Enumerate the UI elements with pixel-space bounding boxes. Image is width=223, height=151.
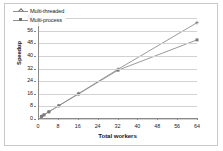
x-axis-tick-labels: 0816243240485664 xyxy=(38,121,197,131)
legend-marker-cross-icon xyxy=(13,8,28,15)
y-axis-tick-label: 16 xyxy=(27,91,33,96)
x-axis-tick-label: 16 xyxy=(75,124,81,129)
y-axis-tick-mark xyxy=(34,69,36,70)
x-axis-tick-label: 32 xyxy=(115,124,121,129)
x-axis-tick-mark xyxy=(38,118,39,120)
x-axis-tick-mark xyxy=(157,118,158,120)
y-axis-tick-label: 8 xyxy=(30,104,33,109)
legend-label: Multi-threaded xyxy=(30,9,64,15)
y-axis-tick-mark xyxy=(34,94,36,95)
legend-item-multi-threaded[interactable]: Multi-threaded xyxy=(13,7,64,16)
x-axis-tick-mark xyxy=(118,118,119,120)
gridline xyxy=(39,106,197,107)
gridline xyxy=(39,31,197,32)
x-axis-tick-label: 0 xyxy=(37,124,40,129)
y-axis-tick-label: 32 xyxy=(27,66,33,71)
gridline xyxy=(39,69,197,70)
gridline xyxy=(39,43,197,44)
x-axis-tick-mark xyxy=(98,118,99,120)
y-axis-tick-mark xyxy=(34,31,36,32)
y-axis-tick-label: 24 xyxy=(27,78,33,83)
legend-label: Multi-process xyxy=(30,18,62,24)
gridline xyxy=(39,56,197,57)
x-axis-tick-label: 48 xyxy=(154,124,160,129)
y-axis-tick-labels: 0816243240485664 xyxy=(5,18,36,119)
x-axis-tick-label: 64 xyxy=(194,124,200,129)
y-axis-tick-mark xyxy=(34,119,36,120)
x-axis-tick-label: 8 xyxy=(56,124,59,129)
gridline xyxy=(39,94,197,95)
y-axis-tick-label: 48 xyxy=(27,41,33,46)
data-point-marker xyxy=(196,38,199,41)
x-axis-tick-mark xyxy=(197,118,198,120)
x-axis-tick-mark xyxy=(137,118,138,120)
y-axis-tick-mark xyxy=(34,106,36,107)
y-axis-tick-label: 0 xyxy=(30,116,33,121)
data-point-marker xyxy=(47,110,50,113)
y-axis-tick-mark xyxy=(34,43,36,44)
x-axis-tick-label: 24 xyxy=(95,124,101,129)
x-axis-title: Total workers xyxy=(38,132,197,139)
plot-area xyxy=(38,18,197,119)
x-axis-tick-mark xyxy=(58,118,59,120)
legend-item-multi-process[interactable]: Multi-process xyxy=(13,16,64,25)
legend-marker-square-icon xyxy=(13,17,28,24)
y-axis-tick-label: 40 xyxy=(27,53,33,58)
data-point-marker xyxy=(42,113,45,116)
x-axis-tick-label: 40 xyxy=(134,124,140,129)
gridline xyxy=(39,81,197,82)
y-axis-tick-mark xyxy=(34,81,36,82)
series-line-2 xyxy=(41,40,197,117)
chart-legend: Multi-threaded Multi-process xyxy=(12,6,66,26)
chart-frame: Speedup 0816243240485664 081624324048566… xyxy=(4,3,218,146)
x-axis-tick-mark xyxy=(78,118,79,120)
y-axis-tick-label: 56 xyxy=(27,28,33,33)
x-axis-tick-label: 56 xyxy=(174,124,180,129)
x-axis-tick-mark xyxy=(177,118,178,120)
y-axis-tick-mark xyxy=(34,56,36,57)
